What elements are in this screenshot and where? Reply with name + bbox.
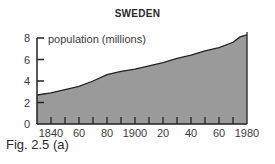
svg-text:6: 6: [24, 54, 30, 66]
svg-text:40: 40: [185, 127, 197, 139]
y-axis-label: population (millions): [48, 33, 146, 45]
svg-text:8: 8: [24, 32, 30, 44]
svg-text:80: 80: [101, 127, 113, 139]
svg-text:2: 2: [24, 97, 30, 109]
svg-text:60: 60: [213, 127, 225, 139]
figure-caption: Fig. 2.5 (a): [6, 137, 69, 152]
svg-text:1900: 1900: [123, 127, 147, 139]
svg-text:4: 4: [24, 75, 30, 87]
svg-text:0: 0: [24, 118, 30, 130]
svg-text:1980: 1980: [235, 127, 259, 139]
svg-text:20: 20: [157, 127, 169, 139]
svg-text:60: 60: [73, 127, 85, 139]
